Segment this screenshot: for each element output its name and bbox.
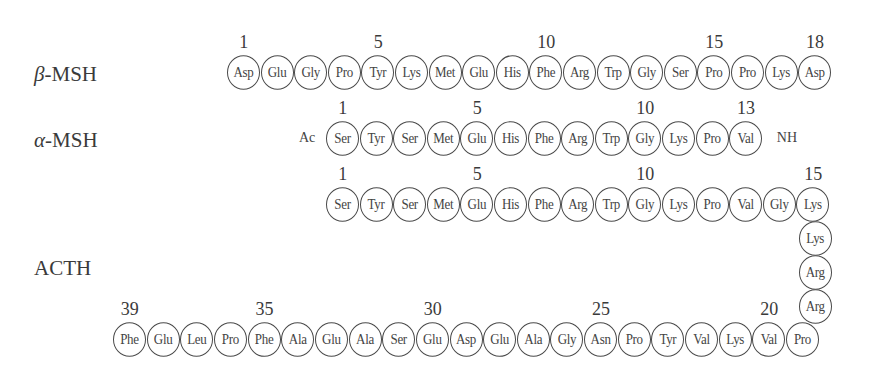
beta-msh-residue: Tyr [361, 55, 394, 90]
acth-top-residue: Lys [796, 187, 829, 222]
acth-bottom-residue: Ala [517, 322, 550, 357]
acth-bottom-residue: Tyr [651, 322, 684, 357]
acth-bottom-residue: Phe [248, 322, 281, 357]
alpha-msh-residue: Ser [393, 121, 426, 156]
acth-column-residue: Arg [799, 255, 832, 290]
acth-bottom-residue: Leu [180, 322, 213, 357]
acth-bottom-residue: Glu [483, 322, 516, 357]
acth-top-residue: His [494, 187, 527, 222]
beta-msh-residue: Gly [294, 55, 327, 90]
beta-msh-residue: Pro [697, 55, 730, 90]
acth-bottom-residue: Lys [719, 322, 752, 357]
alpha-msh-residue: Lys [662, 121, 695, 156]
alpha-msh-residue: Gly [628, 121, 661, 156]
acth-top-residue: Val [729, 187, 762, 222]
acth-top-residue: Pro [696, 187, 729, 222]
beta-msh-residue: Phe [529, 55, 562, 90]
residue-position-number: 1 [338, 164, 347, 185]
peptide-name: -MSH [44, 62, 97, 86]
alpha-msh-residue: His [494, 121, 527, 156]
beta-msh-residue: Glu [462, 55, 495, 90]
alpha-msh-residue: Pro [696, 121, 729, 156]
c-terminal-amide: NH [777, 130, 797, 146]
beta-msh-residue: Lys [765, 55, 798, 90]
acth-bottom-residue: Pro [214, 322, 247, 357]
alpha-msh-residue: Trp [595, 121, 628, 156]
beta-msh-residue: Trp [597, 55, 630, 90]
acth-top-residue: Gly [763, 187, 796, 222]
acth-top-residue: Glu [460, 187, 493, 222]
residue-position-number: 35 [255, 299, 273, 320]
residue-position-number: 15 [804, 164, 822, 185]
residue-position-number: 20 [760, 299, 778, 320]
acth-top-residue: Gly [628, 187, 661, 222]
acth-bottom-residue: Gly [550, 322, 583, 357]
acth-bottom-residue: Glu [416, 322, 449, 357]
acth-top-residue: Ser [393, 187, 426, 222]
acth-top-residue: Ser [326, 187, 359, 222]
residue-position-number: 1 [338, 98, 347, 119]
residue-position-number: 13 [737, 98, 755, 119]
alpha-msh-residue: Val [729, 121, 762, 156]
beta-msh-residue: Ser [664, 55, 697, 90]
peptide-name: -MSH [45, 128, 98, 152]
beta-msh-residue: Gly [630, 55, 663, 90]
beta-msh-residue: Pro [731, 55, 764, 90]
acth-bottom-residue: Glu [315, 322, 348, 357]
beta-msh-residue: His [496, 55, 529, 90]
acth-top-residue: Trp [595, 187, 628, 222]
acth-column-residue: Lys [799, 221, 832, 256]
residue-position-number: 1 [239, 32, 248, 53]
residue-position-number: 5 [374, 32, 383, 53]
acth-label: ACTH [34, 256, 91, 281]
acth-bottom-residue: Ala [349, 322, 382, 357]
alpha-msh-residue: Tyr [360, 121, 393, 156]
beta-msh-residue: Arg [563, 55, 596, 90]
residue-position-number: 30 [424, 299, 442, 320]
acth-column-residue: Arg [799, 289, 832, 324]
residue-position-number: 18 [806, 32, 824, 53]
acth-bottom-residue: Asp [450, 322, 483, 357]
n-terminal-acetyl: Ac [299, 130, 315, 146]
acth-top-residue: Lys [662, 187, 695, 222]
acth-bottom-residue: Asn [584, 322, 617, 357]
acth-top-residue: Met [427, 187, 460, 222]
peptide-sequence-diagram: β-MSHAspGluGlyProTyrLysMetGluHisPheArgTr… [0, 0, 873, 379]
acth-bottom-residue: Phe [113, 322, 146, 357]
acth-bottom-residue: Val [752, 322, 785, 357]
acth-bottom-residue: Pro [618, 322, 651, 357]
residue-position-number: 15 [705, 32, 723, 53]
acth-top-residue: Phe [528, 187, 561, 222]
greek-prefix: β [34, 62, 44, 86]
residue-position-number: 39 [121, 299, 139, 320]
beta-msh-residue: Lys [395, 55, 428, 90]
beta-msh-label: β-MSH [34, 62, 97, 87]
residue-position-number: 5 [473, 98, 482, 119]
alpha-msh-label: α-MSH [34, 128, 98, 153]
greek-prefix: α [34, 128, 45, 152]
alpha-msh-residue: Met [427, 121, 460, 156]
alpha-msh-residue: Glu [460, 121, 493, 156]
residue-position-number: 10 [537, 32, 555, 53]
residue-position-number: 10 [636, 98, 654, 119]
acth-bottom-residue: Pro [786, 322, 819, 357]
residue-position-number: 25 [592, 299, 610, 320]
alpha-msh-residue: Ser [326, 121, 359, 156]
beta-msh-residue: Asp [227, 55, 260, 90]
alpha-msh-residue: Phe [528, 121, 561, 156]
beta-msh-residue: Pro [328, 55, 361, 90]
acth-bottom-residue: Ser [382, 322, 415, 357]
acth-bottom-residue: Glu [147, 322, 180, 357]
acth-bottom-residue: Val [685, 322, 718, 357]
beta-msh-residue: Glu [261, 55, 294, 90]
residue-position-number: 10 [636, 164, 654, 185]
beta-msh-residue: Met [429, 55, 462, 90]
acth-top-residue: Arg [561, 187, 594, 222]
peptide-name: ACTH [34, 256, 91, 280]
residue-position-number: 5 [473, 164, 482, 185]
acth-bottom-residue: Ala [281, 322, 314, 357]
beta-msh-residue: Asp [798, 55, 831, 90]
acth-top-residue: Tyr [360, 187, 393, 222]
alpha-msh-residue: Arg [561, 121, 594, 156]
